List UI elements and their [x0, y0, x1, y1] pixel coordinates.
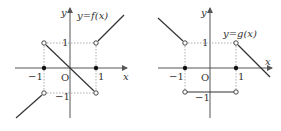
x-axis-label: x: [123, 71, 129, 82]
tick-x-neg1: −1: [169, 71, 184, 82]
origin-label: O: [201, 72, 209, 83]
tick-x-neg1: −1: [28, 71, 43, 82]
function-label-f: y=f(x): [76, 10, 108, 21]
y-axis-label: y: [200, 7, 207, 18]
function-label-g: y=g(x): [222, 28, 257, 39]
graph-g: y x O 1 −1 1 −1 y=g(x): [158, 7, 272, 118]
origin-label: O: [61, 72, 69, 83]
graphs-canvas: y x O 1 −1 1 −1 y=f(x) y: [0, 0, 281, 131]
y-axis-label: y: [60, 7, 67, 18]
tick-y-1: 1: [202, 37, 208, 48]
tick-y-neg1: −1: [195, 92, 210, 103]
tick-x-1: 1: [98, 71, 104, 82]
x-axis-label: x: [265, 56, 271, 67]
tick-y-neg1: −1: [55, 91, 70, 102]
graph-f: y x O 1 −1 1 −1 y=f(x): [15, 7, 129, 118]
tick-y-1: 1: [62, 37, 68, 48]
tick-x-1: 1: [238, 71, 244, 82]
